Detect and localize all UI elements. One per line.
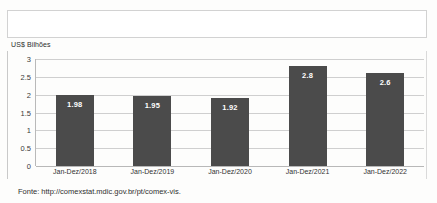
y-axis-tick-label: 1.5 <box>21 108 31 117</box>
bar-slot: 1.95 <box>114 59 192 166</box>
x-axis-tick-labels: Jan-Dez/2018Jan-Dez/2019Jan-Dez/2020Jan-… <box>36 168 424 180</box>
bar-value-label: 1.98 <box>56 100 94 109</box>
source-caption: Fonte: http://comexstat.mdic.gov.br/pt/c… <box>18 187 181 196</box>
bar-slot: 1.92 <box>191 59 269 166</box>
y-axis-tick-label: 0 <box>27 162 31 171</box>
x-axis-tick-label: Jan-Dez/2019 <box>131 168 175 175</box>
bar-value-label: 2.6 <box>366 78 404 87</box>
x-axis-tick-label: Jan-Dez/2020 <box>208 168 252 175</box>
y-axis-tick-label: 0.5 <box>21 144 31 153</box>
x-axis-tick-label: Jan-Dez/2022 <box>363 168 407 175</box>
gridline <box>36 166 424 167</box>
bar[interactable]: 2.6 <box>366 73 404 166</box>
x-axis-tick-label: Jan-Dez/2021 <box>286 168 330 175</box>
y-axis-tick-label: 2.5 <box>21 72 31 81</box>
bar-value-label: 1.95 <box>133 101 171 110</box>
bar-value-label: 2.8 <box>289 71 327 80</box>
y-axis-tick-label: 2 <box>27 90 31 99</box>
bar-slot: 1.98 <box>36 59 114 166</box>
bar[interactable]: 1.95 <box>133 96 171 166</box>
x-axis-tick-label: Jan-Dez/2018 <box>53 168 97 175</box>
bar-slot: 2.6 <box>346 59 424 166</box>
bar-slot: 2.8 <box>269 59 347 166</box>
document-page: US$ Bilhões 32.521.510.50 1.981.951.922.… <box>0 0 437 203</box>
y-axis-tick-label: 3 <box>27 55 31 64</box>
bar[interactable]: 1.98 <box>56 95 94 166</box>
bar[interactable]: 1.92 <box>211 98 249 166</box>
empty-caption-box <box>7 10 427 38</box>
y-axis-tick-label: 1 <box>27 126 31 135</box>
bar-value-label: 1.92 <box>211 103 249 112</box>
bar[interactable]: 2.8 <box>289 66 327 166</box>
y-axis-tick-labels: 32.521.510.50 <box>10 59 31 166</box>
bar-series: 1.981.951.922.82.6 <box>36 59 424 166</box>
y-axis-title: US$ Bilhões <box>11 41 51 48</box>
